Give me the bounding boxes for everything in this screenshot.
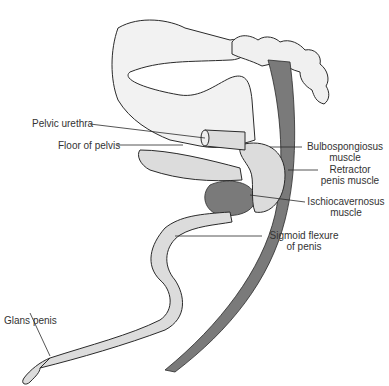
- label-retractor-line2: penis muscle: [318, 175, 382, 186]
- label-bulbospongiosus: Bulbospongiosus muscle: [305, 141, 385, 163]
- label-pelvic-urethra: Pelvic urethra: [32, 118, 93, 129]
- label-ischiocavernosus: Ischiocavernosus muscle: [306, 196, 386, 218]
- label-sigmoid-flexure: Sigmoid flexure of penis: [264, 230, 344, 252]
- label-sigmoid-line1: Sigmoid flexure: [264, 230, 344, 241]
- label-ischio-line2: muscle: [306, 207, 386, 218]
- ischiocavernosus-muscle: [205, 181, 256, 215]
- label-retractor-penis-muscle: Retractor penis muscle: [318, 164, 382, 186]
- label-ischio-line1: Ischiocavernosus: [306, 196, 386, 207]
- label-floor-of-pelvis: Floor of pelvis: [58, 140, 120, 151]
- label-sigmoid-line2: of penis: [264, 241, 344, 252]
- label-bulbospongiosus-line1: Bulbospongiosus: [305, 141, 385, 152]
- label-retractor-line1: Retractor: [318, 164, 382, 175]
- pelvic-urethra: [205, 130, 245, 150]
- label-glans-penis: Glans penis: [4, 315, 57, 326]
- anatomy-diagram: Pelvic urethra Floor of pelvis Bulbospon…: [0, 0, 389, 386]
- glans-penis: [23, 358, 50, 384]
- pelvis-bone: [112, 20, 255, 147]
- floor-of-pelvis: [138, 150, 242, 181]
- label-bulbospongiosus-line2: muscle: [305, 152, 385, 163]
- illustration: [0, 0, 389, 386]
